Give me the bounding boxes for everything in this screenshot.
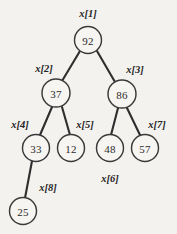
node-value: 92	[82, 35, 93, 47]
node-index-label: x[4]	[10, 119, 29, 130]
tree-node-5: 12 x[5]	[58, 119, 95, 162]
edge-n3-to-n6	[111, 108, 118, 135]
node-index-label: x[6]	[100, 173, 119, 184]
node-value: 12	[65, 143, 76, 155]
node-index-label: x[8]	[38, 182, 57, 193]
node-value: 33	[30, 143, 42, 155]
edge-n4-to-n8	[25, 161, 32, 198]
edge-n2-to-n5	[62, 107, 70, 135]
node-value: 86	[116, 89, 128, 101]
node-value: 25	[17, 206, 29, 218]
tree-node-7: 57 x[7]	[132, 119, 167, 162]
node-value: 37	[50, 88, 62, 100]
tree-node-8: 25 x[8]	[10, 182, 58, 225]
edge-root-to-right	[97, 51, 115, 82]
heap-tree-diagram: 92 x[1] 37 x[2] 86 x[3] 33 x[4] 12 x[5]	[0, 0, 177, 234]
edge-root-to-left	[62, 51, 80, 81]
node-index-label: x[1]	[78, 8, 97, 19]
edge-n3-to-n7	[127, 108, 140, 135]
edge-n2-to-n4	[40, 107, 52, 135]
node-value: 57	[139, 143, 151, 155]
node-index-label: x[3]	[125, 64, 144, 75]
tree-node-2: 37 x[2]	[34, 63, 70, 108]
node-index-label: x[5]	[75, 119, 94, 130]
tree-node-6: 48 x[6]	[97, 135, 124, 184]
tree-node-3: 86 x[3]	[108, 64, 144, 109]
node-index-label: x[2]	[34, 63, 53, 74]
tree-node-1: 92 x[1]	[75, 8, 102, 54]
node-value: 48	[104, 143, 116, 155]
node-index-label: x[7]	[147, 119, 166, 130]
tree-graphic: 92 x[1] 37 x[2] 86 x[3] 33 x[4] 12 x[5]	[0, 0, 177, 234]
